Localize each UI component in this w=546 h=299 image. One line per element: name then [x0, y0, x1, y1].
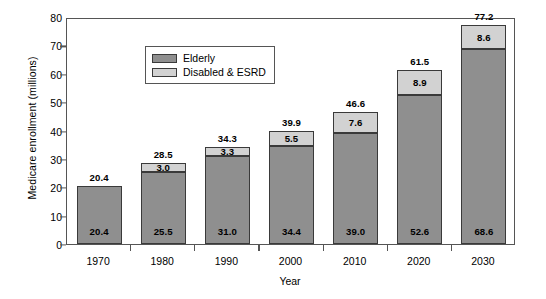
bar-total-label: 46.6	[333, 98, 378, 109]
y-tick-label: 10	[0, 211, 62, 223]
bar-segment-disabled-esrd: 8.9	[397, 70, 442, 95]
y-tick-label: 0	[0, 239, 62, 251]
bar-total-label: 34.3	[205, 133, 250, 144]
x-tick-mark	[323, 245, 324, 251]
bar-1990: 31.03.334.3	[205, 147, 250, 244]
bar-total-label: 39.9	[269, 117, 314, 128]
y-tick-label: 20	[0, 182, 62, 194]
bar-total-label: 61.5	[397, 56, 442, 67]
bar-segment-value-elderly: 34.4	[282, 226, 301, 237]
bar-2020: 52.68.961.5	[397, 70, 442, 245]
x-tick-mark	[258, 245, 259, 251]
legend-swatch-disabled-esrd	[152, 68, 177, 77]
y-tick-label: 60	[0, 69, 62, 81]
bar-segment-value-disabled-esrd: 5.5	[285, 133, 299, 144]
bar-total-label: 77.2	[461, 11, 506, 22]
bar-segment-elderly: 68.6	[461, 49, 506, 244]
y-tick-label: 70	[0, 40, 62, 52]
bar-segment-value-elderly: 25.5	[154, 226, 173, 237]
bar-segment-value-disabled-esrd: 3.0	[156, 162, 170, 173]
x-tick-label-1970: 1970	[86, 255, 109, 267]
plot-area: 20.420.425.53.028.531.03.334.334.45.539.…	[66, 18, 515, 245]
bar-segment-elderly: 52.6	[397, 95, 442, 244]
y-tick-label: 80	[0, 12, 62, 24]
y-tick-label: 50	[0, 97, 62, 109]
bar-segment-value-disabled-esrd: 8.9	[413, 77, 427, 88]
x-tick-label-1990: 1990	[215, 255, 238, 267]
y-tick-label: 40	[0, 126, 62, 138]
bar-total-label: 20.4	[77, 172, 122, 183]
bar-1970: 20.420.4	[77, 186, 122, 244]
legend-label-disabled-esrd: Disabled & ESRD	[183, 66, 266, 78]
bar-segment-elderly: 20.4	[77, 186, 122, 244]
x-axis-title: Year	[0, 275, 546, 287]
x-axis-title-text: Year	[279, 275, 300, 287]
bar-1980: 25.53.028.5	[141, 163, 186, 244]
bar-segment-value-elderly: 31.0	[218, 226, 237, 237]
x-tick-mark	[451, 245, 452, 251]
bar-segment-disabled-esrd: 3.3	[205, 147, 250, 156]
bar-segment-value-elderly: 39.0	[346, 226, 365, 237]
bar-total-label: 28.5	[141, 149, 186, 160]
x-tick-mark	[130, 245, 131, 251]
bar-segment-value-elderly: 68.6	[474, 226, 493, 237]
x-tick-label-2030: 2030	[471, 255, 494, 267]
bar-segment-value-elderly: 20.4	[90, 226, 109, 237]
chart-legend: Elderly Disabled & ESRD	[145, 46, 275, 84]
legend-label-elderly: Elderly	[183, 52, 215, 64]
bar-segment-elderly: 39.0	[333, 133, 378, 244]
x-tick-mark	[387, 245, 388, 251]
x-tick-label-1980: 1980	[151, 255, 174, 267]
x-tick-mark	[194, 245, 195, 251]
bar-segment-value-disabled-esrd: 8.6	[477, 32, 491, 43]
bar-segment-value-disabled-esrd: 3.3	[221, 146, 235, 157]
bar-2010: 39.07.646.6	[333, 112, 378, 244]
bar-2000: 34.45.539.9	[269, 131, 314, 244]
x-tick-label-2010: 2010	[343, 255, 366, 267]
bar-segment-elderly: 34.4	[269, 146, 314, 244]
bar-segment-disabled-esrd: 7.6	[333, 112, 378, 134]
bar-segment-disabled-esrd: 3.0	[141, 163, 186, 172]
y-tick-label: 30	[0, 154, 62, 166]
bar-segment-disabled-esrd: 8.6	[461, 25, 506, 49]
bar-segment-value-elderly: 52.6	[410, 226, 429, 237]
x-tick-label-2000: 2000	[279, 255, 302, 267]
medicare-enrollment-chart: Medicare enrollment (millions) 010203040…	[0, 0, 546, 299]
x-tick-label-2020: 2020	[407, 255, 430, 267]
legend-item-disabled-esrd: Disabled & ESRD	[152, 65, 266, 79]
legend-item-elderly: Elderly	[152, 51, 266, 65]
bar-segment-disabled-esrd: 5.5	[269, 131, 314, 147]
bar-segment-elderly: 25.5	[141, 172, 186, 244]
bar-2030: 68.68.677.2	[461, 25, 506, 244]
bar-segment-value-disabled-esrd: 7.6	[349, 117, 363, 128]
legend-swatch-elderly	[152, 54, 177, 63]
bar-segment-elderly: 31.0	[205, 156, 250, 244]
